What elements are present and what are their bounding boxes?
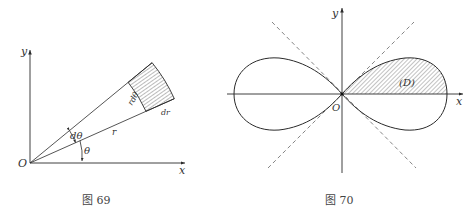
- dr-label: dr: [161, 108, 171, 117]
- caption-fig69: 图 69: [82, 194, 111, 207]
- caption-fig70: 图 70: [325, 194, 354, 207]
- x-axis-label: x: [456, 95, 463, 108]
- y-axis-label: y: [20, 45, 28, 58]
- r-label: r: [112, 127, 117, 137]
- dashed-line-nw-se: [272, 22, 416, 168]
- theta-arc: [80, 141, 82, 161]
- ray-lower: [30, 99, 174, 163]
- figure-70: y x O (D) 图 70: [227, 7, 463, 207]
- origin-label: O: [18, 157, 27, 170]
- region-d-label: (D): [399, 77, 415, 88]
- origin-point: [340, 92, 343, 95]
- dtheta-label: dθ: [70, 130, 82, 141]
- diagram-canvas: y x O dθ θ r rdθ dr 图 69 y x O (D) 图 70: [0, 0, 475, 223]
- y-axis-label: y: [331, 7, 339, 20]
- x-axis-label: x: [179, 164, 186, 177]
- theta-label: θ: [84, 145, 90, 156]
- origin-label: O: [332, 102, 340, 113]
- figure-69: y x O dθ θ r rdθ dr 图 69: [18, 45, 186, 207]
- ray-upper: [30, 63, 152, 163]
